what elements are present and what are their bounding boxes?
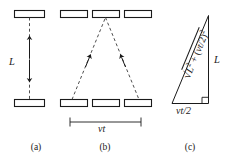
physics-figure: L vt L vt/2 √ L2 + (vt/2)2 (a) (b) (c) xyxy=(0,0,232,161)
mirror-bottom-a xyxy=(15,100,45,107)
mirror-bottom-b-1 xyxy=(61,100,88,107)
label-side-L-panel-c: L xyxy=(214,54,220,65)
label-base-vt-half-panel-c: vt/2 xyxy=(176,105,191,116)
right-angle-marker xyxy=(202,97,209,103)
panel-caption-b: (b) xyxy=(85,142,125,152)
panel-caption-c: (c) xyxy=(170,142,210,152)
mirror-top-b-1 xyxy=(61,11,88,18)
figure-canvas xyxy=(0,0,232,161)
label-length-L-panel-a: L xyxy=(9,56,15,67)
label-distance-vt-panel-b: vt xyxy=(98,123,105,134)
arrow-b-left xyxy=(86,57,90,67)
mirror-bottom-b-3 xyxy=(125,100,152,107)
panel-caption-a: (a) xyxy=(16,142,56,152)
arrow-b-right xyxy=(122,57,126,67)
mirror-top-b-2 xyxy=(93,11,120,18)
mirror-top-b-3 xyxy=(125,11,152,18)
mirror-bottom-b-2 xyxy=(93,100,120,107)
panel-a xyxy=(15,11,45,107)
mirror-top-a xyxy=(15,11,45,18)
panel-b xyxy=(61,11,152,127)
